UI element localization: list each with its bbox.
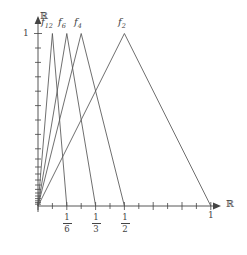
x-tick-label-one-sixth-den: 6 — [62, 225, 72, 234]
x-tick-label-one-third-num: 1 — [91, 213, 101, 222]
curve-label-f4: f4 — [74, 16, 82, 30]
curve-label-f4-sub: 4 — [78, 22, 82, 30]
curve-label-f6-sub: 6 — [62, 22, 66, 30]
x-tick-label-one-third-den: 3 — [91, 225, 101, 234]
x-tick-label-one-half: 1 2 — [120, 213, 130, 234]
x-tick-label-one-half-num: 1 — [120, 213, 130, 222]
y-tick-label-1: 1 — [23, 28, 29, 38]
curve-f6 — [38, 34, 96, 207]
x-tick-label-one-sixth-num: 1 — [62, 213, 72, 222]
axes-group — [35, 16, 221, 212]
curves-group — [38, 34, 211, 207]
x-tick-label-one: 1 — [208, 210, 214, 220]
x-tick-label-one-half-den: 2 — [120, 225, 130, 234]
tent-functions-figure: ℝ ℝ 1 f12 f6 f4 f2 1 6 1 3 1 2 1 — [0, 0, 247, 255]
x-tick-label-one-third: 1 3 — [91, 213, 101, 234]
curve-label-f6: f6 — [58, 16, 66, 30]
curve-label-f12-sub: 12 — [45, 22, 53, 30]
curve-label-f2-sub: 2 — [122, 22, 126, 30]
x-axis-arrowhead — [213, 203, 221, 210]
curve-label-f12: f12 — [41, 16, 53, 30]
x-tick-label-one-sixth: 1 6 — [62, 213, 72, 234]
x-axis-label: ℝ — [226, 198, 234, 209]
curve-label-f2: f2 — [118, 16, 126, 30]
curve-f2 — [38, 34, 211, 207]
